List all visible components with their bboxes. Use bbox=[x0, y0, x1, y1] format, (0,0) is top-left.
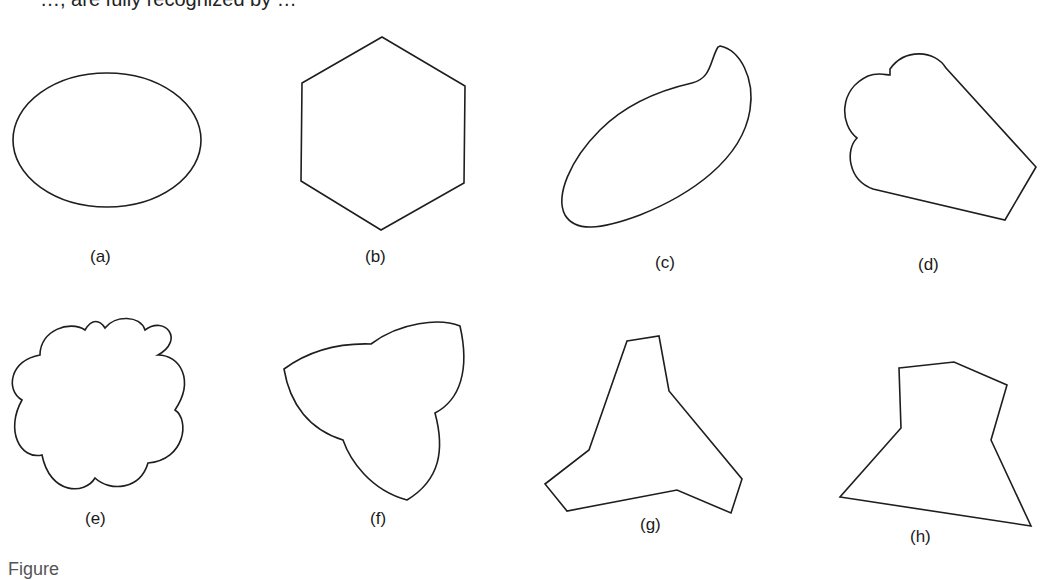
hexagon-shape bbox=[301, 37, 465, 230]
panel-label-c: (c) bbox=[655, 253, 675, 272]
ellipse-shape bbox=[13, 73, 201, 207]
panel-label-g: (g) bbox=[640, 515, 661, 534]
scalloped-flower-shape bbox=[12, 318, 184, 488]
panel-f: (f) bbox=[284, 322, 464, 528]
three-arm-polygon-shape bbox=[545, 336, 742, 513]
panel-label-b: (b) bbox=[365, 247, 386, 266]
panel-c: (c) bbox=[562, 46, 751, 272]
panel-label-d: (d) bbox=[918, 255, 939, 274]
panel-label-e: (e) bbox=[85, 509, 106, 528]
panel-h: (h) bbox=[840, 362, 1031, 546]
panel-label-a: (a) bbox=[90, 247, 111, 266]
irregular-polygon-shape bbox=[840, 362, 1031, 526]
trefoil-shape bbox=[284, 322, 464, 500]
panel-e: (e) bbox=[12, 318, 184, 528]
teardrop-shape bbox=[562, 46, 751, 227]
panel-label-h: (h) bbox=[910, 527, 931, 546]
panel-d: (d) bbox=[845, 54, 1036, 274]
panel-g: (g) bbox=[545, 336, 742, 534]
panel-a: (a) bbox=[13, 73, 201, 266]
panel-b: (b) bbox=[301, 37, 465, 266]
scalloped-quad-shape bbox=[845, 54, 1036, 220]
panel-label-f: (f) bbox=[370, 509, 386, 528]
figure-caption-partial: Figure bbox=[8, 559, 59, 580]
